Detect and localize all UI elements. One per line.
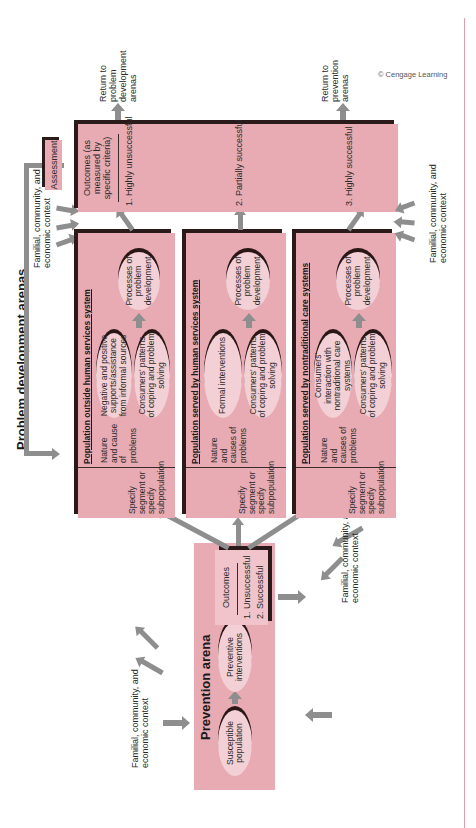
outcome-1: 1. Highly unsuccessful	[124, 116, 134, 206]
context-arrow-icon	[312, 712, 332, 718]
row1-segment: Specify segment or specify subpopulation	[128, 468, 166, 514]
context-arrow-icon	[56, 237, 73, 247]
branch-arrow-icon	[236, 524, 241, 546]
prevention-arena-box: Prevention arena Susceptible population …	[194, 543, 275, 790]
prevention-title: Prevention arena	[198, 635, 213, 741]
divider	[237, 563, 238, 615]
row2-processes: Processes of problem development	[226, 252, 270, 310]
row3-nature: Nature and causes of problems	[320, 423, 358, 463]
row3-middle-bottom: Consumers' patterns of coping and proble…	[354, 333, 392, 418]
row2-nature: Nature and causes of problems	[210, 423, 248, 463]
copyright: © Cengage Learning	[378, 70, 468, 80]
row2-middle-bottom: Consumers' patterns of coping and proble…	[244, 333, 282, 418]
return-arrow-icon	[340, 110, 346, 120]
row3-segment: Specify segment or specify subpopulation	[348, 468, 386, 514]
context-arrow-icon	[163, 720, 183, 726]
feedback-line-down	[24, 451, 54, 456]
row-nontraditional-care: Specify segment or specify subpopulation…	[296, 233, 396, 518]
context-arrowhead-icon	[305, 708, 313, 722]
flow-arrow-icon	[246, 320, 252, 328]
feedback-line-h	[24, 166, 29, 456]
exit-arrow-icon	[278, 594, 300, 600]
node-susceptible-population: Susceptible population	[218, 710, 252, 776]
outcome-3: 3. Highly successful	[344, 126, 354, 206]
return-arrow-icon	[115, 110, 121, 120]
row-outside-human-services: Specify segment or specify subpopulation…	[78, 233, 175, 518]
exit-arrowhead-icon	[298, 590, 306, 604]
assessment-label: Assessment	[49, 140, 59, 190]
row2-title: Population served by human services syst…	[190, 280, 200, 464]
frame-line	[464, 18, 465, 828]
row2-middle-top: Formal interventions	[204, 333, 242, 418]
outcomes-box: Outcomes (as measured by specific criter…	[78, 124, 398, 212]
return-top: Return to problem development arenas	[98, 30, 138, 102]
prevention-context-left: Familial, community, and economic contex…	[130, 658, 150, 768]
diagram-canvas: © Cengage Learning Familial, community, …	[0, 0, 476, 828]
node-preventive-interventions: Preventive interventions	[218, 622, 252, 692]
row1-middle-top: Negative and positive supports/assistanc…	[96, 333, 132, 418]
row1-nature: Nature and cause of problems	[100, 423, 138, 463]
context-arrow-icon	[56, 223, 73, 231]
context-arrow-icon	[400, 201, 415, 210]
row1-title: Population outside human services system	[82, 289, 92, 464]
outcome-2: 2. Partially successful	[234, 119, 244, 206]
row2-segment: Specify segment or specify subpopulation	[238, 468, 276, 514]
assessment-box: Assessment	[45, 140, 62, 190]
prevention-outcome-2: 2. Successful	[255, 565, 265, 619]
prevention-outcomes-heading: Outcomes	[221, 550, 231, 625]
row3-middle-top: Consumers' interaction with nontradition…	[314, 333, 352, 418]
context-arrow-icon	[56, 206, 73, 214]
context-arrow-icon	[400, 219, 414, 225]
prevention-outcomes-box: Outcomes 1. Unsuccessful 2. Successful	[215, 550, 268, 625]
row1-processes: Processes of problem development	[118, 252, 160, 310]
divider	[118, 134, 119, 202]
outcomes-heading: Outcomes (as measured by specific criter…	[82, 128, 112, 208]
row-to-outcome-arrow-icon	[119, 212, 135, 231]
row-to-outcome-arrow-icon	[346, 212, 362, 231]
flow-arrow-icon	[356, 320, 362, 328]
return-bottom: Return to prevention arenas	[320, 30, 350, 102]
row-to-outcome-arrow-icon	[238, 214, 243, 230]
flow-arrow-icon	[136, 320, 142, 328]
row3-processes: Processes of problem development	[336, 252, 380, 310]
row3-title: Population served by nontraditional care…	[300, 263, 310, 464]
context-bottom: Familial, community, and economic contex…	[428, 143, 448, 263]
context-arrow-icon	[139, 629, 160, 650]
flow-arrow-icon	[232, 698, 238, 704]
feedback-arrowhead-icon	[52, 448, 60, 460]
context-arrow-icon	[400, 233, 415, 242]
prevention-outcome-1: 1. Unsuccessful	[242, 555, 252, 619]
row-served-human-services: Specify segment or specify subpopulation…	[186, 233, 286, 518]
row1-middle-bottom: Consumers' patterns of coping and proble…	[134, 333, 170, 418]
